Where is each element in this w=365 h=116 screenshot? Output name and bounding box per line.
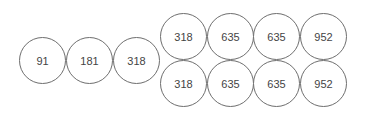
circle-node: 635	[253, 60, 300, 107]
circle-value: 635	[221, 78, 239, 90]
circle-node: 635	[207, 13, 254, 60]
circle-value: 181	[80, 55, 98, 67]
circle-node: 635	[253, 13, 300, 60]
circle-node: 318	[113, 37, 160, 84]
circle-node: 181	[66, 37, 113, 84]
circle-value: 635	[267, 31, 285, 43]
circle-value: 952	[314, 78, 332, 90]
circle-value: 318	[174, 31, 192, 43]
circle-node: 952	[300, 60, 347, 107]
circle-value: 635	[267, 78, 285, 90]
circle-value: 952	[314, 31, 332, 43]
circle-value: 318	[127, 55, 145, 67]
circle-node: 318	[160, 60, 207, 107]
circle-node: 318	[160, 13, 207, 60]
circle-node: 91	[19, 37, 66, 84]
circle-value: 635	[221, 31, 239, 43]
circle-value: 91	[36, 55, 48, 67]
circle-node: 635	[207, 60, 254, 107]
circle-value: 318	[174, 78, 192, 90]
circle-node: 952	[300, 13, 347, 60]
